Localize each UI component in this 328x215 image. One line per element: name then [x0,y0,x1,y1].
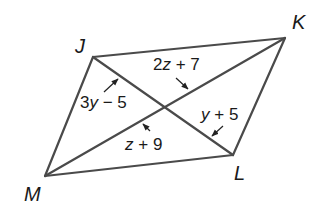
variable: y [201,105,210,124]
operator: + [171,55,190,74]
side-mj [45,57,93,176]
side-lm [45,155,233,176]
arrow-z+9 [143,124,150,131]
vertex-label-m: M [24,184,41,204]
arrow-y+5 [212,126,223,136]
arrow-2z+7 [176,78,188,89]
constant: 7 [190,55,199,74]
segment-label-y+5: y + 5 [201,106,238,123]
variable: z [125,135,134,154]
operator: − [98,93,117,112]
vertex-label-l: L [234,163,245,183]
vertex-label-k: K [292,12,305,32]
constant: 5 [117,93,126,112]
variable: y [89,93,98,112]
constant: 5 [229,105,238,124]
segment-label-3y-5: 3y − 5 [80,94,127,111]
vertex-label-j: J [75,36,85,56]
constant: 9 [153,135,162,154]
variable: z [162,55,171,74]
operator: + [134,135,153,154]
segment-label-2z+7: 2z + 7 [153,56,200,73]
parallelogram-diagram [0,0,328,215]
segment-label-z+9: z + 9 [125,136,162,153]
arrow-3y-5 [104,79,118,92]
side-kl [233,38,285,155]
operator: + [210,105,229,124]
